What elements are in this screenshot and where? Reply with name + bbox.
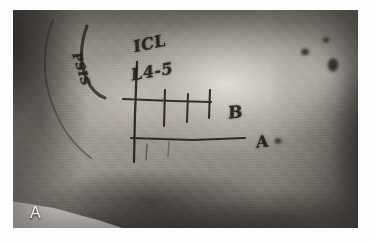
clinical-photograph: PSIS ICL L4-5 B A A [13, 10, 358, 228]
panel-label: A [30, 204, 41, 222]
figure-root: PSIS ICL L4-5 B A A [0, 0, 375, 242]
photo-vignette [13, 10, 358, 228]
